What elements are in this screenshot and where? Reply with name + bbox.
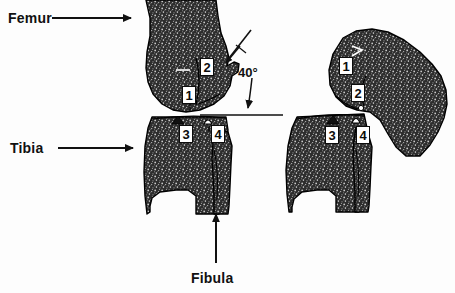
figure-graphics	[0, 0, 455, 293]
angle-oblique-line	[226, 30, 251, 62]
angle-curved-arrow	[248, 78, 252, 108]
left-view-bones	[144, 0, 239, 214]
left-view-marker-4[interactable]: 4	[211, 125, 225, 143]
fibula-label: Fibula	[191, 271, 233, 285]
right-view-marker-1[interactable]: 1	[339, 57, 353, 75]
femur-label: Femur	[8, 11, 52, 25]
angle-label-40-degrees: 40°	[238, 66, 258, 79]
left-view-marker-3[interactable]: 3	[179, 125, 193, 143]
femur-contact-point-right	[358, 105, 363, 110]
right-view-marker-2[interactable]: 2	[351, 84, 365, 102]
left-view-marker-1[interactable]: 1	[182, 86, 196, 104]
left-view-marker-2[interactable]: 2	[200, 58, 214, 76]
right-view-marker-3[interactable]: 3	[325, 126, 339, 144]
anatomical-figure: Femur Tibia Fibula 40° 1 2 3 4 1 2 3 4	[0, 0, 455, 293]
tibia-label: Tibia	[10, 141, 43, 155]
right-view-marker-4[interactable]: 4	[356, 126, 370, 144]
right-view-bones	[286, 29, 447, 212]
